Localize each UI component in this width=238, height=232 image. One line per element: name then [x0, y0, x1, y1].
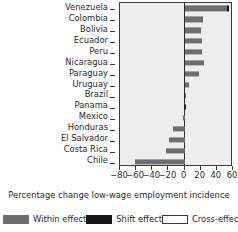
bar-row: [120, 90, 231, 101]
bar-segment-within: [185, 17, 204, 22]
x-axis-tick-label: −20: [159, 170, 177, 180]
y-axis-tick: [110, 42, 115, 43]
y-axis-label-peru: Peru: [89, 46, 108, 57]
legend-item-within-effect: Within effect: [3, 214, 86, 224]
legend-item-cross-effect: Cross-effect: [162, 214, 238, 224]
bar-segment-shift: [185, 104, 186, 109]
bar-chart: VenezuelaColombiaBoliviaEcuadorPeruNicar…: [0, 0, 238, 232]
y-axis-label-panama: Panama: [74, 100, 108, 111]
y-axis-label-nicaragua: Nicaragua: [65, 57, 108, 68]
x-axis: −80−60−40−200204060: [119, 166, 232, 184]
y-axis-tick: [110, 141, 115, 142]
bar-segment-within: [185, 93, 187, 98]
plot-area: [119, 2, 232, 166]
y-axis-label-honduras: Honduras: [68, 122, 108, 133]
bar-segment-within: [183, 115, 185, 120]
x-axis-tick-label: 40: [211, 170, 222, 180]
y-axis-tick: [110, 152, 115, 153]
bar-row: [120, 80, 231, 91]
bar-segment-within: [185, 6, 227, 11]
y-axis-tick: [110, 108, 115, 109]
bar-segment-shift: [227, 6, 230, 11]
y-axis-tick: [110, 130, 115, 131]
bar-row: [120, 101, 231, 112]
bar-row: [120, 3, 231, 14]
y-axis-tick: [110, 86, 115, 87]
y-axis-label-ecuador: Ecuador: [74, 35, 108, 46]
y-axis-labels: VenezuelaColombiaBoliviaEcuadorPeruNicar…: [0, 2, 115, 166]
bar-segment-within: [185, 82, 189, 87]
bar-row: [120, 14, 231, 25]
y-axis-label-colombia: Colombia: [69, 13, 108, 24]
x-axis-tick-label: −60: [126, 170, 144, 180]
y-axis-label-bolivia: Bolivia: [80, 24, 108, 35]
bar-segment-within: [185, 71, 200, 76]
y-axis-label-chile: Chile: [87, 155, 108, 166]
bar-row: [120, 134, 231, 145]
x-axis-tick-label: −80: [110, 170, 128, 180]
y-axis-tick: [110, 97, 115, 98]
bar-segment-within: [135, 159, 185, 164]
within-swatch-icon: [3, 215, 29, 224]
y-axis-tick: [110, 75, 115, 76]
x-axis-tick-label: 0: [181, 170, 186, 180]
x-axis-tick-label: 60: [227, 170, 238, 180]
y-axis-label-paraguay: Paraguay: [69, 68, 108, 79]
y-axis-label-venezuela: Venezuela: [65, 2, 108, 13]
legend-label-shift: Shift effect: [116, 214, 162, 224]
chart-legend: Within effect Shift effect Cross-effect: [0, 208, 238, 230]
bar-row: [120, 47, 231, 58]
bar-row: [120, 145, 231, 156]
bar-segment-within: [185, 39, 203, 44]
y-axis-label-brazil: Brazil: [85, 89, 108, 100]
bar-row: [120, 69, 231, 80]
y-axis-label-el-salvador: El Salvador: [61, 133, 108, 144]
y-axis-tick: [110, 53, 115, 54]
legend-item-shift-effect: Shift effect: [86, 214, 162, 224]
bar-row: [120, 156, 231, 166]
x-axis-title: Percentage change low-wage employment in…: [0, 190, 238, 200]
y-axis-tick: [110, 163, 115, 164]
legend-label-within: Within effect: [33, 214, 86, 224]
bar-row: [120, 123, 231, 134]
legend-label-cross: Cross-effect: [192, 214, 238, 224]
y-axis-tick: [110, 31, 115, 32]
y-axis-label-uruguay: Uruguay: [72, 79, 108, 90]
bar-segment-within: [169, 137, 185, 142]
cross-swatch-icon: [162, 215, 188, 224]
bar-row: [120, 36, 231, 47]
bar-row: [120, 112, 231, 123]
x-axis-tick-label: −40: [142, 170, 160, 180]
bar-segment-within: [185, 50, 203, 55]
y-axis-tick: [110, 20, 115, 21]
y-axis-tick: [110, 9, 115, 10]
bar-segment-within: [173, 126, 184, 131]
x-axis-tick-label: 20: [194, 170, 205, 180]
bar-segment-within: [185, 61, 204, 66]
bar-segment-within: [166, 148, 185, 153]
bar-row: [120, 25, 231, 36]
y-axis-label-costa-rica: Costa Rica: [64, 144, 108, 155]
shift-swatch-icon: [86, 215, 112, 224]
bar-segment-within: [185, 28, 202, 33]
y-axis-tick: [110, 64, 115, 65]
y-axis-tick: [110, 119, 115, 120]
bar-row: [120, 58, 231, 69]
y-axis-label-mexico: Mexico: [79, 111, 108, 122]
